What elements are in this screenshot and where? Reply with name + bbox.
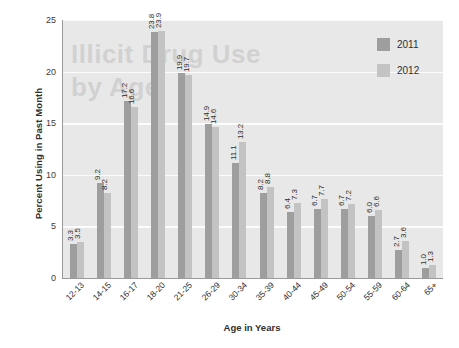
bar[interactable] (260, 193, 267, 278)
legend-swatch-icon (377, 38, 390, 51)
y-axis-tick: 0 (30, 273, 56, 283)
bar[interactable] (368, 216, 375, 278)
bar[interactable] (70, 244, 77, 278)
bar-group: 23.823.9 (151, 20, 165, 278)
bar-group: 17.216.6 (124, 20, 138, 278)
legend-label: 2012 (397, 65, 419, 76)
bar[interactable] (124, 101, 131, 279)
bar[interactable] (205, 124, 212, 278)
bar-value-label: 6.6 (372, 196, 381, 207)
bar-value-label: 8.8 (263, 173, 272, 184)
bar[interactable] (267, 187, 274, 278)
bar[interactable] (429, 265, 436, 278)
bar[interactable] (422, 268, 429, 278)
bar[interactable] (232, 163, 239, 278)
legend-item[interactable]: 2012 (377, 60, 443, 80)
bar[interactable] (212, 127, 219, 278)
bar-chart: Percent Using in Past Month 0510152025 I… (0, 0, 459, 348)
y-axis-tick: 20 (30, 67, 56, 77)
bar[interactable] (287, 212, 294, 278)
bar-group: 9.28.2 (97, 20, 111, 278)
bar-value-label: 3.5 (73, 228, 82, 239)
bar[interactable] (341, 209, 348, 278)
bar[interactable] (97, 183, 104, 278)
bar[interactable] (104, 193, 111, 278)
x-axis-tick-labels: 12-1314-1516-1718-2021-2526-2930-3435-39… (62, 280, 442, 320)
bar-group: 11.113.2 (232, 20, 246, 278)
bar-value-label: 11.1 (229, 146, 238, 161)
bar-group: 6.77.2 (341, 20, 355, 278)
bar-group: 8.28.8 (260, 20, 274, 278)
bar-value-label: 8.2 (100, 180, 109, 191)
bar-value-label: 13.2 (236, 124, 245, 139)
bar[interactable] (151, 32, 158, 278)
legend-item[interactable]: 2011 (377, 34, 443, 54)
bar-value-label: 19.7 (182, 57, 191, 72)
bar-value-label: 14.6 (209, 109, 218, 124)
bar[interactable] (178, 73, 185, 278)
legend-label: 2011 (397, 39, 419, 50)
bar[interactable] (348, 204, 355, 278)
bar-group: 6.47.3 (287, 20, 301, 278)
bar[interactable] (314, 209, 321, 278)
bar-group: 6.77.7 (314, 20, 328, 278)
bar-value-label: 7.2 (344, 190, 353, 201)
bar[interactable] (321, 199, 328, 278)
y-axis-tick: 10 (30, 170, 56, 180)
bar-value-label: 7.3 (290, 189, 299, 200)
bar-value-label: 16.6 (127, 89, 136, 104)
bar-group: 14.914.6 (205, 20, 219, 278)
y-axis-tick-labels: 0510152025 (30, 14, 56, 284)
chart-legend: 20112012 (377, 34, 443, 86)
bar[interactable] (375, 210, 382, 278)
bar[interactable] (402, 241, 409, 278)
bar-value-label: 1.3 (426, 251, 435, 262)
y-axis-tick: 5 (30, 221, 56, 231)
bar-value-label: 6.7 (310, 195, 319, 206)
bar[interactable] (77, 242, 84, 278)
bar[interactable] (185, 75, 192, 278)
bar[interactable] (158, 31, 165, 278)
bar-group: 3.33.5 (70, 20, 84, 278)
bar-value-label: 3.6 (399, 227, 408, 238)
bar-value-label: 23.9 (154, 13, 163, 28)
bar[interactable] (294, 203, 301, 278)
bar-value-label: 7.7 (317, 185, 326, 196)
y-axis-tick: 15 (30, 118, 56, 128)
y-axis-tick: 25 (30, 15, 56, 25)
bar[interactable] (395, 250, 402, 278)
bar[interactable] (131, 107, 138, 278)
bar[interactable] (239, 142, 246, 278)
bar-group: 19.919.7 (178, 20, 192, 278)
legend-swatch-icon (377, 64, 390, 77)
x-axis-title: Age in Years (62, 322, 442, 333)
